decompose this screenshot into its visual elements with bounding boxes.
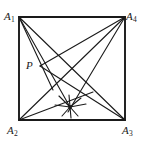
cevian-lines-group [19, 17, 125, 120]
vertex-label-a3-letter: A [122, 124, 129, 136]
vertex-label-a2: A2 [7, 125, 17, 136]
point-label-p: P [26, 60, 33, 71]
vertex-label-a2-letter: A [7, 124, 14, 136]
vertex-label-a2-subscript: 2 [14, 129, 18, 138]
starburst-group [55, 95, 86, 118]
vertex-label-a3-subscript: 3 [129, 129, 133, 138]
vertex-label-a1-subscript: 1 [11, 15, 15, 24]
vertex-label-a4-subscript: 4 [133, 15, 137, 24]
segment-A2-Q [19, 92, 93, 120]
starburst-center-dot [68, 105, 72, 109]
segment-P-A3 [40, 66, 125, 120]
segment-A1-P-ext [19, 17, 53, 90]
geometry-figure: A1 A4 A2 A3 P [0, 0, 147, 147]
vertex-label-a4: A4 [126, 11, 136, 22]
vertex-label-a1: A1 [4, 11, 14, 22]
vertex-label-a1-letter: A [4, 10, 11, 22]
vertex-label-a4-letter: A [126, 10, 133, 22]
vertex-label-a3: A3 [122, 125, 132, 136]
